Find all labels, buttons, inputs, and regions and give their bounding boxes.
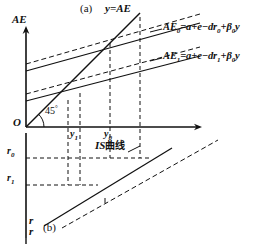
panel-b-curves	[44, 140, 218, 228]
degree-symbol: °	[55, 104, 58, 112]
is-curve-line	[44, 148, 172, 226]
ae1-equation-label: AE1=a+e−dr1+β0y	[163, 51, 240, 64]
ae0-equation-label: AE0=a+e−dr0+β0y	[163, 22, 240, 35]
figure-canvas	[0, 0, 272, 246]
is-label-leader	[128, 146, 140, 152]
ae1-eq-body: =a+e−dr	[180, 50, 217, 61]
ae0-eq-prefix: AE	[163, 21, 177, 32]
ae1-eq-prefix: AE	[163, 50, 177, 61]
forty-five-degree-line	[26, 13, 140, 127]
ae0-eq-tail: +β	[221, 21, 232, 32]
y-tick-label-r1: r1	[7, 173, 14, 186]
panel-a-title-equation: y=AE	[105, 3, 131, 14]
x-tick-y1-sub: 1	[74, 134, 78, 142]
ae0-eq-body: =a+e−dr	[180, 21, 217, 32]
x-tick-label-y1: y1	[70, 129, 78, 142]
y-tick-label-r0: r0	[7, 146, 14, 159]
ae0-label-leader	[150, 29, 162, 32]
panel-b-label: (b)	[43, 222, 56, 233]
panel-a-title: (a)	[80, 3, 92, 14]
angle-value: 45	[45, 105, 55, 116]
ae1-eq-end: y	[235, 50, 240, 61]
origin-label: O	[13, 117, 21, 128]
is-curve-derivation-figure: (a) y=AE AE AE0=a+e−dr0+β0y AE1=a+e−dr1+…	[0, 0, 272, 246]
ae0-eq-end: y	[235, 21, 240, 32]
is-curve-label: IS曲线	[95, 140, 125, 151]
y-tick-r0-sub: 0	[11, 151, 15, 159]
is-curve-label-cn: 曲线	[105, 140, 125, 151]
panel-b-y-axis-label-secondary: r	[29, 226, 33, 237]
angle-arc	[38, 114, 44, 127]
is-curve-label-text: IS	[95, 139, 105, 151]
ae1-label-leader	[150, 58, 162, 61]
forty-five-degree-label: 45°	[45, 105, 58, 116]
panel-a-y-axis-label: AE	[12, 14, 27, 25]
ae1-eq-tail: +β	[221, 50, 232, 61]
y-tick-r1-sub: 1	[11, 178, 15, 186]
